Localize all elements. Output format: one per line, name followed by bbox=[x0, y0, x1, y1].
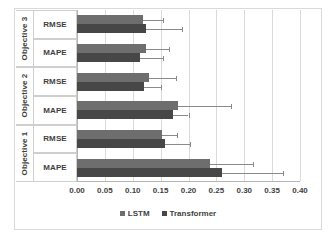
error-bar-lstm-objective-1-mape bbox=[210, 164, 253, 165]
error-bar-transformer-objective-3-rmse bbox=[146, 29, 182, 30]
x-axis-tick-0.00: 0.00 bbox=[69, 186, 85, 195]
error-cap-transformer-objective-2-mape bbox=[189, 113, 190, 118]
x-axis-tick-0.15: 0.15 bbox=[153, 186, 169, 195]
error-cap-transformer-objective-1-rmse bbox=[190, 142, 191, 147]
y-axis-metric-label-5: MAPE bbox=[34, 153, 77, 182]
error-cap-transformer-objective-3-rmse bbox=[182, 27, 183, 32]
error-cap-transformer-objective-1-mape bbox=[283, 171, 284, 176]
y-axis-objective-group-1: Objective 2 bbox=[16, 67, 34, 124]
legend-swatch-transformer-icon bbox=[162, 211, 167, 216]
gridline-0.30 bbox=[244, 10, 245, 181]
error-bar-transformer-objective-2-mape bbox=[173, 115, 189, 116]
x-axis-tick-0.40: 0.40 bbox=[292, 186, 308, 195]
error-bar-transformer-objective-1-mape bbox=[222, 173, 283, 174]
y-axis-objective-group-column: Objective 3 Objective 2 Objective 1 bbox=[16, 10, 34, 182]
legend-item-transformer[interactable]: Transformer bbox=[162, 209, 217, 218]
x-axis-tick-0.25: 0.25 bbox=[209, 186, 225, 195]
legend-label-transformer: Transformer bbox=[170, 209, 217, 218]
error-cap-transformer-objective-2-rmse bbox=[161, 85, 162, 90]
y-axis-objective-group-label-1: Objective 2 bbox=[20, 74, 29, 118]
bar-transformer-objective-1-rmse bbox=[77, 139, 165, 148]
gridline-0.10 bbox=[133, 10, 134, 181]
error-bar-lstm-objective-3-rmse bbox=[143, 20, 164, 21]
error-bar-transformer-objective-1-rmse bbox=[165, 144, 190, 145]
y-axis-metric-label-4: RMSE bbox=[34, 125, 77, 154]
error-cap-lstm-objective-3-mape bbox=[169, 47, 170, 52]
gridline-0.05 bbox=[105, 10, 106, 181]
error-bar-lstm-objective-2-rmse bbox=[149, 78, 176, 79]
y-axis-metric-label-2: RMSE bbox=[34, 67, 77, 96]
error-cap-lstm-objective-1-mape bbox=[253, 162, 254, 167]
bar-lstm-objective-3-rmse bbox=[77, 15, 143, 24]
bar-transformer-objective-3-mape bbox=[77, 53, 140, 62]
x-axis-tick-0.05: 0.05 bbox=[97, 186, 113, 195]
legend-item-lstm[interactable]: LSTM bbox=[120, 209, 150, 218]
error-bar-lstm-objective-3-mape bbox=[146, 49, 169, 50]
bar-lstm-objective-2-mape bbox=[77, 101, 178, 110]
y-axis-metric-label-3: MAPE bbox=[34, 96, 77, 125]
error-bar-transformer-objective-3-mape bbox=[140, 58, 163, 59]
x-axis-tick-labels: 0.000.050.100.150.200.250.300.350.40 bbox=[77, 186, 300, 200]
bar-lstm-objective-2-rmse bbox=[77, 73, 149, 82]
error-bar-transformer-objective-2-rmse bbox=[144, 87, 161, 88]
bar-lstm-objective-1-rmse bbox=[77, 130, 162, 139]
y-axis-metric-label-1: MAPE bbox=[34, 39, 77, 68]
y-axis-objective-group-label-0: Objective 3 bbox=[20, 17, 29, 61]
bar-lstm-objective-1-mape bbox=[77, 159, 210, 168]
error-bar-lstm-objective-1-rmse bbox=[162, 135, 178, 136]
error-cap-lstm-objective-2-rmse bbox=[176, 76, 177, 81]
x-axis-tick-0.10: 0.10 bbox=[125, 186, 141, 195]
y-axis-objective-group-label-2: Objective 1 bbox=[20, 131, 29, 175]
chart-legend: LSTMTransformer bbox=[14, 206, 322, 220]
gridline-0.25 bbox=[216, 10, 217, 181]
error-cap-lstm-objective-2-mape bbox=[231, 104, 232, 109]
error-cap-lstm-objective-3-rmse bbox=[163, 18, 164, 23]
x-axis-tick-0.30: 0.30 bbox=[236, 186, 252, 195]
x-axis-tick-0.35: 0.35 bbox=[264, 186, 280, 195]
error-cap-transformer-objective-3-mape bbox=[163, 56, 164, 61]
gridline-0.00 bbox=[77, 10, 78, 181]
bar-transformer-objective-2-rmse bbox=[77, 82, 144, 91]
gridline-0.20 bbox=[189, 10, 190, 181]
gridline-0.15 bbox=[161, 10, 162, 181]
x-axis-tick-0.20: 0.20 bbox=[181, 186, 197, 195]
bar-transformer-objective-2-mape bbox=[77, 110, 173, 119]
y-axis-objective-group-2: Objective 1 bbox=[16, 125, 34, 182]
legend-swatch-lstm-icon bbox=[120, 211, 125, 216]
bar-transformer-objective-3-rmse bbox=[77, 24, 146, 33]
gridline-0.40 bbox=[300, 10, 301, 181]
plot-area bbox=[77, 10, 300, 182]
bar-transformer-objective-1-mape bbox=[77, 168, 222, 177]
y-axis-metric-column: RMSE MAPE RMSE MAPE RMSE MAPE bbox=[34, 10, 77, 182]
chart-container: Objective 3 Objective 2 Objective 1 RMSE… bbox=[0, 0, 336, 245]
gridline-0.35 bbox=[272, 10, 273, 181]
y-axis-metric-label-0: RMSE bbox=[34, 10, 77, 39]
error-bar-lstm-objective-2-mape bbox=[178, 106, 232, 107]
legend-label-lstm: LSTM bbox=[128, 209, 150, 218]
y-axis-objective-group-0: Objective 3 bbox=[16, 10, 34, 67]
bar-lstm-objective-3-mape bbox=[77, 44, 146, 53]
error-cap-lstm-objective-1-rmse bbox=[177, 133, 178, 138]
